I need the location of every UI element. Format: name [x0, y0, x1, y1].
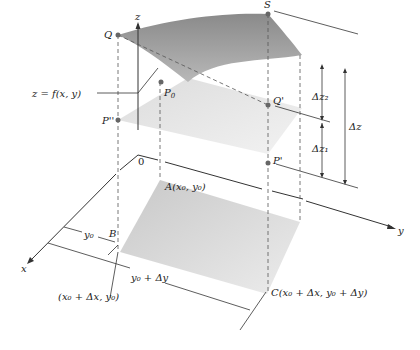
label-y0: y₀	[83, 229, 94, 240]
tick-C	[240, 292, 266, 330]
label-dz: Δz	[348, 121, 362, 132]
label-A: A(x₀, y₀)	[164, 181, 206, 192]
intermediate-plane	[118, 78, 302, 154]
label-P-prime: P'	[272, 155, 282, 166]
label-dz1: Δz₁	[311, 143, 329, 154]
point-P0	[159, 80, 164, 85]
diagram-canvas: z y x 0 Q S P0 P'' Q' P' B z = f(x, y) A…	[0, 0, 420, 350]
point-S	[266, 12, 271, 17]
tick-B	[108, 245, 118, 255]
leader-surface-b	[138, 68, 158, 93]
y0-dim-a	[64, 227, 82, 232]
z-axis-arrow	[136, 22, 141, 29]
dim-arrows	[320, 64, 347, 185]
x-axis-segment-1	[120, 155, 138, 170]
label-B: B	[108, 228, 116, 239]
origin-label: 0	[138, 156, 144, 167]
label-P-double-prime: P''	[101, 115, 114, 126]
label-Q: Q	[104, 29, 112, 40]
y-axis-segment-4	[306, 201, 392, 227]
y-axis-arrow	[387, 224, 396, 229]
x-axis-segment-2	[30, 174, 116, 261]
label-Q-prime: Q'	[273, 95, 284, 106]
label-y0-dy: y₀ + Δy	[130, 272, 169, 283]
label-C-coord: C(x₀ + Δx, y₀ + Δy)	[271, 287, 367, 298]
surface-equation-label: z = f(x, y)	[31, 88, 81, 99]
point-P-double-prime	[116, 118, 121, 123]
label-B-coord: (x₀ + Δx, y₀)	[58, 291, 119, 302]
y-axis-label: y	[397, 225, 404, 236]
label-dz2: Δz₂	[311, 91, 329, 102]
point-Q	[116, 33, 121, 38]
point-Q-prime	[266, 103, 271, 108]
y-axis-segment-3	[272, 191, 303, 199]
point-P-prime	[266, 161, 271, 166]
z-axis-label: z	[134, 11, 141, 22]
label-S: S	[264, 0, 271, 10]
x-axis-label: x	[21, 263, 27, 274]
y0dy-dim-b	[165, 283, 250, 310]
